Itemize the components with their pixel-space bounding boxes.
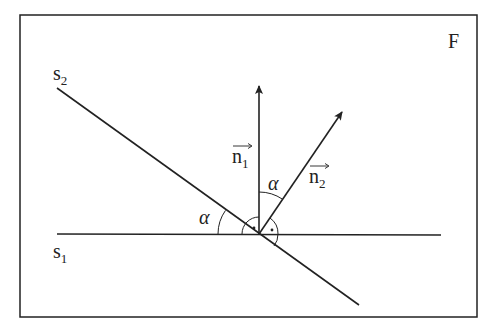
line-s1 (57, 234, 441, 235)
angle-arc-lines (218, 210, 226, 234)
angle-between-lines-diagram: F s1 s2 n1 n2 α α (0, 0, 480, 328)
line-s2 (57, 88, 359, 305)
frame-border (20, 15, 477, 317)
angle-label-lines: α (199, 206, 210, 228)
label-n1: n1 (232, 144, 252, 172)
right-angle-dot-n2-s1 (271, 229, 274, 232)
svg-text:n2: n2 (309, 165, 326, 191)
label-s1: s1 (53, 240, 67, 266)
label-n2: n2 (309, 164, 329, 192)
label-s2: s2 (53, 62, 67, 88)
frame-label: F (448, 30, 459, 52)
svg-text:n1: n1 (232, 145, 249, 171)
right-angle-dot-s2-n1 (253, 227, 256, 230)
angle-label-normals: α (268, 172, 279, 194)
